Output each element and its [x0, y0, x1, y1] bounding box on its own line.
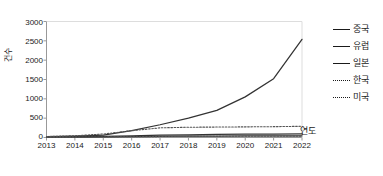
- x-tick-label: 2022: [293, 141, 311, 150]
- x-tick-label: 2013: [38, 141, 56, 150]
- x-tick-label: 2018: [180, 141, 198, 150]
- legend: 중국 유럽 일본 한국 미국: [333, 21, 383, 106]
- legend-item-japan[interactable]: 일본: [333, 55, 383, 72]
- x-tick-label: 2014: [66, 141, 84, 150]
- legend-item-korea[interactable]: 한국: [333, 72, 383, 89]
- x-tick-label: 2015: [94, 141, 112, 150]
- legend-label: 일본: [353, 59, 369, 68]
- x-axis-title: 연도: [300, 124, 316, 137]
- x-tick-label: 2017: [151, 141, 169, 150]
- x-tick-label: 2021: [265, 141, 283, 150]
- legend-label: 유럽: [353, 42, 369, 51]
- legend-line-icon: [333, 29, 350, 30]
- legend-item-usa[interactable]: 미국: [333, 89, 383, 106]
- legend-label: 미국: [353, 93, 369, 102]
- legend-item-europe[interactable]: 유럽: [333, 38, 383, 55]
- legend-label: 중국: [353, 25, 369, 34]
- x-tick-label: 2020: [236, 141, 254, 150]
- legend-item-china[interactable]: 중국: [333, 21, 383, 38]
- x-tick-label: 2019: [208, 141, 226, 150]
- series-line-china: [47, 39, 303, 136]
- legend-label: 한국: [353, 76, 369, 85]
- legend-line-icon: [333, 80, 350, 81]
- legend-line-icon: [333, 46, 350, 47]
- legend-line-icon: [333, 97, 350, 98]
- legend-line-icon: [333, 63, 350, 64]
- line-chart: 건수 3000 2500 2000 1500 1000 500 0 201320…: [0, 0, 383, 176]
- x-tick-label: 2016: [123, 141, 141, 150]
